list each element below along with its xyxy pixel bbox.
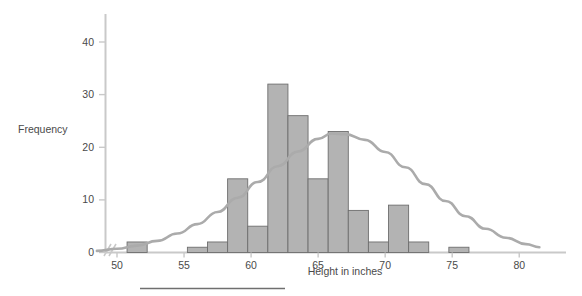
histogram-bar (409, 242, 429, 253)
histogram-bar (187, 247, 207, 252)
histogram-bar (348, 210, 368, 252)
chart-canvas: 0 10 20 30 40 Frequency 50556065707580 H… (0, 0, 582, 296)
histogram-bar (228, 179, 248, 253)
histogram-bar (208, 242, 228, 253)
y-tick-label-0: 0 (88, 246, 94, 258)
y-axis-ticks (99, 42, 105, 253)
x-axis-title: Height in inches (308, 265, 383, 277)
y-tick-label-40: 40 (82, 36, 94, 48)
histogram-bars (127, 84, 469, 252)
x-tick-label-75: 75 (446, 259, 458, 271)
histogram-bar (389, 205, 409, 252)
y-axis-title: Frequency (18, 123, 68, 135)
x-tick-label-55: 55 (178, 259, 190, 271)
histogram-bar (308, 179, 328, 253)
y-axis-tick-labels: 0 10 20 30 40 (82, 36, 94, 259)
y-tick-label-20: 20 (82, 141, 94, 153)
y-tick-label-10: 10 (82, 193, 94, 205)
histogram-bar (449, 247, 469, 252)
x-tick-label-50: 50 (111, 259, 123, 271)
histogram-bar (288, 116, 308, 253)
histogram-bar (328, 131, 348, 252)
histogram-bar (368, 242, 388, 253)
x-tick-label-60: 60 (245, 259, 257, 271)
histogram-figure: 0 10 20 30 40 Frequency 50556065707580 H… (0, 0, 582, 296)
x-tick-label-80: 80 (513, 259, 525, 271)
y-tick-label-30: 30 (82, 88, 94, 100)
histogram-bar (248, 226, 268, 252)
